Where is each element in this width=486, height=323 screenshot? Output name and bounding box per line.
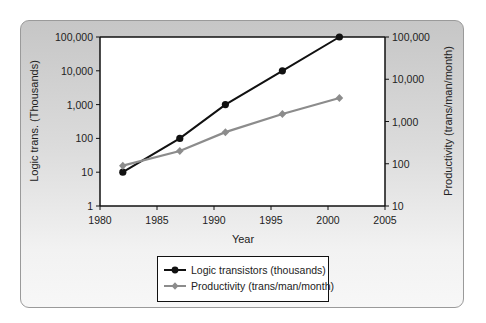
y-tick-label-left: 10,000 — [61, 65, 93, 77]
plot-area — [100, 37, 385, 206]
x-tick-label: 1995 — [259, 214, 283, 226]
legend: Logic transistors (thousands) Productivi… — [157, 256, 329, 302]
x-axis-label: Year — [232, 233, 255, 245]
x-tick-label: 1980 — [88, 214, 112, 226]
y-tick-label-right: 100 — [392, 158, 410, 170]
y-tick-label-right: 10 — [392, 200, 404, 212]
x-tick-label: 2005 — [373, 214, 397, 226]
data-point — [176, 135, 183, 142]
y-tick-label-left: 100 — [75, 132, 93, 144]
y-tick-label-right: 1,000 — [392, 116, 418, 128]
x-tick-label: 1990 — [202, 214, 226, 226]
legend-item-logic-transistors: Logic transistors (thousands) — [164, 262, 328, 278]
data-point — [279, 67, 286, 74]
data-point — [336, 33, 343, 40]
y-axis-label-left: Logic trans. (Thousands) — [28, 60, 40, 182]
y-tick-label-right: 100,000 — [392, 31, 430, 43]
legend-item-productivity: Productivity (trans/man/month) — [164, 278, 328, 294]
x-tick-label: 2000 — [316, 214, 340, 226]
circle-marker-icon — [164, 265, 186, 275]
y-tick-label-left: 10 — [81, 166, 93, 178]
y-axis-label-right: Productivity (trans/man/month) — [442, 46, 454, 196]
legend-label: Logic transistors (thousands) — [191, 262, 326, 278]
data-point — [222, 101, 229, 108]
x-tick-label: 1985 — [145, 214, 169, 226]
diamond-marker-icon — [164, 281, 186, 291]
y-tick-label-left: 1,000 — [67, 99, 93, 111]
y-tick-label-right: 10,000 — [392, 73, 424, 85]
y-tick-label-left: 1 — [87, 200, 93, 212]
legend-label: Productivity (trans/man/month) — [191, 278, 334, 294]
y-tick-label-left: 100,000 — [55, 31, 93, 43]
